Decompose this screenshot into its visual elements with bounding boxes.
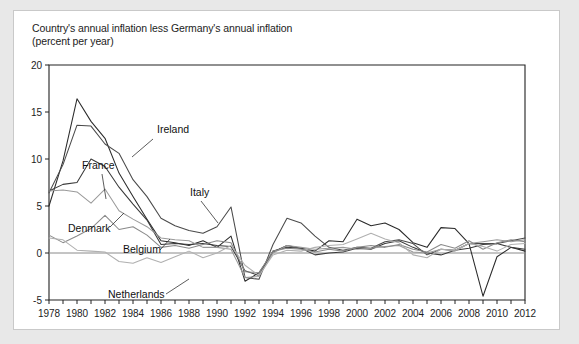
series-line-belgium <box>49 215 525 272</box>
x-tick-label: 1978 <box>38 308 61 319</box>
annotation-leader-line <box>201 201 218 223</box>
series-line-france <box>49 159 525 276</box>
x-axis-ticks <box>49 300 525 304</box>
y-axis-labels: -505101520 <box>31 60 43 306</box>
y-axis-ticks <box>45 65 49 300</box>
figure-card: Country's annual inflation less Germany'… <box>13 10 560 330</box>
line-chart: -505101520 19781980198219841986198819901… <box>14 11 561 331</box>
series-label-netherlands: Netherlands <box>108 288 165 300</box>
x-tick-label: 1988 <box>178 308 201 319</box>
series-annotations: IrelandFranceItalyDenmarkBelgiumNetherla… <box>68 123 218 300</box>
x-tick-label: 1998 <box>318 308 341 319</box>
annotation-leader-line <box>166 279 189 294</box>
plot-area: -505101520 19781980198219841986198819901… <box>14 11 561 331</box>
x-axis-labels: 1978198019821984198619881990199219941996… <box>38 308 537 319</box>
x-tick-label: 1990 <box>206 308 229 319</box>
x-tick-label: 2006 <box>430 308 453 319</box>
series-line-netherlands <box>49 233 525 275</box>
x-tick-label: 2002 <box>374 308 397 319</box>
x-tick-label: 1980 <box>66 308 89 319</box>
series-label-ireland: Ireland <box>157 123 189 135</box>
x-tick-label: 1992 <box>234 308 257 319</box>
x-tick-label: 2010 <box>486 308 509 319</box>
x-tick-label: 1994 <box>262 308 285 319</box>
y-tick-label: 15 <box>31 107 43 118</box>
x-tick-label: 1982 <box>94 308 117 319</box>
series-label-denmark: Denmark <box>68 222 111 234</box>
annotation-leader-line <box>110 213 124 227</box>
plot-frame <box>49 65 525 300</box>
series-line-ireland <box>49 99 525 296</box>
y-tick-label: -5 <box>33 295 42 306</box>
x-tick-label: 1984 <box>122 308 145 319</box>
series-label-france: France <box>82 159 115 171</box>
series-lines <box>49 99 525 296</box>
y-tick-label: 20 <box>31 60 43 71</box>
series-line-italy <box>49 125 525 279</box>
x-tick-label: 2004 <box>402 308 425 319</box>
x-tick-label: 1986 <box>150 308 173 319</box>
x-tick-label: 2000 <box>346 308 369 319</box>
series-label-belgium: Belgium <box>123 243 161 255</box>
y-tick-label: 0 <box>36 248 42 259</box>
series-label-italy: Italy <box>190 186 210 198</box>
x-tick-label: 2008 <box>458 308 481 319</box>
x-tick-label: 1996 <box>290 308 313 319</box>
x-tick-label: 2012 <box>514 308 537 319</box>
y-tick-label: 5 <box>36 201 42 212</box>
annotation-leader-line <box>132 139 153 157</box>
series-line-denmark <box>49 189 525 277</box>
y-tick-label: 10 <box>31 154 43 165</box>
annotation-leader-line <box>102 174 106 199</box>
